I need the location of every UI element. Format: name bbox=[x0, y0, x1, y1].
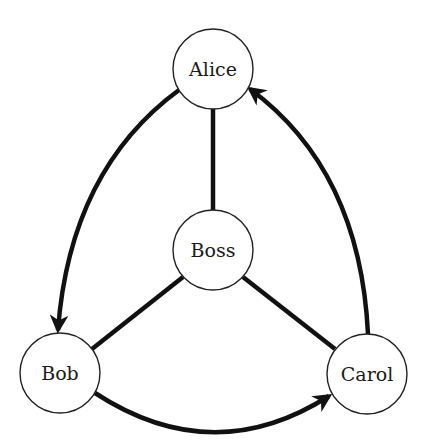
node-alice: Alice bbox=[173, 29, 253, 109]
edge-bob-boss bbox=[92, 277, 183, 349]
node-label-carol: Carol bbox=[341, 363, 393, 385]
edge-carol-boss bbox=[243, 277, 335, 349]
node-carol: Carol bbox=[327, 334, 407, 414]
edge-bob-to-carol bbox=[95, 393, 329, 432]
node-bob: Bob bbox=[20, 333, 100, 413]
node-label-boss: Boss bbox=[191, 239, 236, 261]
node-label-alice: Alice bbox=[188, 58, 237, 80]
node-label-bob: Bob bbox=[41, 362, 79, 384]
graph-diagram: Alice Boss Bob Carol bbox=[0, 0, 430, 448]
node-boss: Boss bbox=[173, 210, 253, 290]
